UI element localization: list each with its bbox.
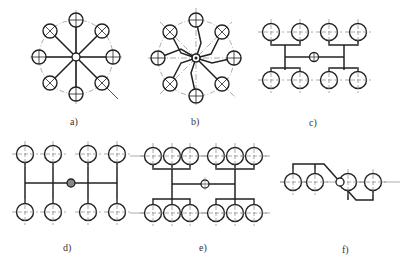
panel-e — [130, 143, 270, 226]
panel-d — [12, 141, 130, 225]
panel-label-d: d) — [63, 242, 71, 253]
diagram-canvas — [0, 0, 409, 266]
panel-b — [148, 8, 244, 106]
hole-icon — [287, 67, 313, 93]
hole-icon — [69, 87, 83, 101]
hole-icon — [287, 19, 313, 45]
hole-icon — [95, 76, 109, 90]
panel-label-a: a) — [70, 116, 78, 127]
hole-icon — [258, 19, 284, 45]
hole-icon — [75, 199, 101, 225]
hole-icon — [258, 67, 284, 93]
panel-c — [258, 19, 371, 93]
hole-icon — [345, 19, 371, 45]
hole-icon — [360, 169, 386, 195]
hole-icon — [12, 199, 38, 225]
panel-label-c: c) — [309, 117, 317, 128]
panel-label-e: e) — [199, 242, 207, 253]
hole-icon — [345, 67, 371, 93]
panel-label-f: f) — [342, 244, 349, 255]
hole-icon — [241, 143, 267, 169]
center-point-icon — [336, 178, 344, 186]
hole-icon — [106, 50, 120, 64]
hole-icon — [40, 141, 66, 167]
hole-icon — [241, 200, 267, 226]
hole-icon — [189, 13, 203, 27]
hole-icon — [43, 76, 57, 90]
hole-icon — [215, 25, 229, 39]
hole-icon — [75, 141, 101, 167]
panel-label-b: b) — [191, 116, 199, 127]
hole-icon — [12, 141, 38, 167]
hole-icon — [104, 199, 130, 225]
hole-icon — [69, 13, 83, 27]
hole-icon — [163, 25, 177, 39]
hole-icon — [177, 143, 203, 169]
hole-icon — [95, 24, 109, 38]
hole-icon — [43, 24, 57, 38]
panel-f — [280, 164, 400, 200]
panel-a — [30, 10, 122, 104]
hole-icon — [177, 200, 203, 226]
hole-icon — [40, 199, 66, 225]
hole-icon — [32, 50, 46, 64]
hole-icon — [151, 51, 165, 65]
hole-icon — [189, 89, 203, 103]
hole-icon — [302, 169, 328, 195]
hole-icon — [104, 141, 130, 167]
center-point-icon — [67, 179, 75, 187]
hole-icon — [163, 77, 177, 91]
center-point-icon — [72, 53, 80, 61]
hole-icon — [316, 67, 342, 93]
hole-icon — [215, 77, 229, 91]
hole-icon — [316, 19, 342, 45]
hole-icon — [227, 51, 241, 65]
